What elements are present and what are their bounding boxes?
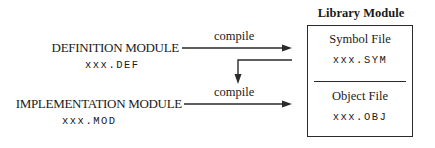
- object-file-name: Object File: [308, 87, 412, 105]
- symbol-file-section: Symbol File xxx.SYM: [308, 30, 412, 66]
- arrow-implementation-to-object: [184, 101, 292, 108]
- object-file-filename: xxx.OBJ: [308, 111, 412, 123]
- symbol-file-filename: xxx.SYM: [308, 54, 412, 66]
- arrow-symbol-feedback: [235, 60, 293, 84]
- symbol-file-name: Symbol File: [308, 30, 412, 48]
- library-module-title: Library Module: [307, 6, 415, 21]
- object-file-section: Object File xxx.OBJ: [308, 87, 412, 123]
- arrow-definition-to-symbol: [182, 45, 292, 52]
- section-divider: [314, 81, 406, 82]
- library-module-box: Symbol File xxx.SYM Object File xxx.OBJ: [307, 25, 413, 137]
